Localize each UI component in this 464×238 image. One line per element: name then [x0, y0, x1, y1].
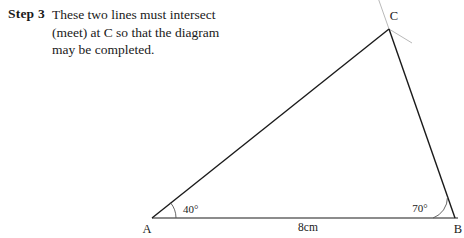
segment-bc: [389, 29, 455, 218]
vertex-label-b: B: [454, 222, 462, 236]
figure-page: Step 3 These two lines must intersect (m…: [0, 0, 464, 238]
angle-label-b: 70°: [412, 202, 427, 214]
base-length-label: 8cm: [298, 221, 318, 233]
angle-arc-b: [433, 197, 448, 218]
construction-ray-from-b: [377, 0, 389, 29]
vertex-label-a: A: [142, 222, 151, 236]
vertex-label-c: C: [390, 9, 398, 23]
triangle-svg: A B C 40° 70° 8cm: [0, 0, 464, 238]
angle-label-a: 40°: [183, 203, 198, 215]
triangle-diagram: A B C 40° 70° 8cm: [0, 0, 464, 238]
angle-arc-a: [170, 203, 176, 218]
segment-ac: [152, 29, 389, 218]
